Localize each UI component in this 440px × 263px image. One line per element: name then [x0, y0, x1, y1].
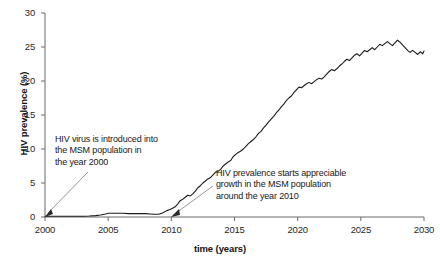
y-tick-label: 20	[13, 75, 35, 86]
annotation-growth-line3: around the year 2010	[216, 191, 346, 202]
annotation-intro-line2: the MSM population in	[55, 145, 158, 156]
y-tick-label: 10	[13, 143, 35, 154]
annotation-growth-line2: growth in the MSM population	[216, 179, 346, 190]
annotation-leader-lines	[45, 172, 213, 217]
hiv-prevalence-chart: HIV prevalence (%) time (years) 05101520…	[0, 0, 440, 263]
annotation-growth: HIV prevalence starts appreciable growth…	[216, 168, 346, 202]
x-axis-title: time (years)	[0, 243, 440, 254]
annotation-intro-line3: the year 2000	[55, 157, 158, 168]
x-tick-label: 2005	[88, 224, 128, 235]
x-tick-label: 2000	[25, 224, 65, 235]
y-tick-label: 0	[13, 211, 35, 222]
y-tick-label: 30	[13, 7, 35, 18]
y-tick-label: 15	[13, 109, 35, 120]
y-tick-label: 25	[13, 41, 35, 52]
x-tick-label: 2030	[404, 224, 440, 235]
x-axis-ticks	[45, 217, 424, 221]
x-tick-label: 2020	[278, 224, 318, 235]
y-tick-label: 5	[13, 177, 35, 188]
arrowhead-growth	[171, 209, 180, 217]
y-axis-ticks	[41, 13, 45, 217]
x-tick-label: 2010	[151, 224, 191, 235]
annotation-intro: HIV virus is introduced into the MSM pop…	[55, 134, 158, 168]
x-tick-label: 2015	[215, 224, 255, 235]
annotation-growth-line1: HIV prevalence starts appreciable	[216, 168, 346, 179]
leader-line-intro	[48, 172, 88, 213]
annotation-intro-line1: HIV virus is introduced into	[55, 134, 158, 145]
x-tick-label: 2025	[341, 224, 381, 235]
